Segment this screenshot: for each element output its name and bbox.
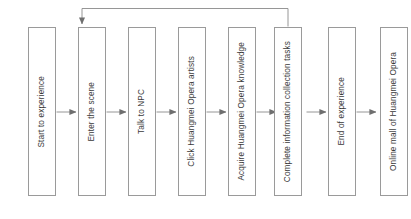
node-label: Talk to NPC [138, 89, 146, 134]
node-label: Complete information collection tasks [284, 41, 292, 182]
node-label: Start to experience [38, 76, 46, 148]
node-label: Acquire Huangmei Opera knowledge [238, 42, 246, 181]
feedback-loop-n6-n2 [82, 9, 288, 27]
node-online-mall-of-huangmei-opera[interactable]: Online mall of Huangmei Opera [380, 27, 408, 196]
node-end-of-experience[interactable]: End of experience [328, 27, 356, 196]
node-complete-information-collection-tasks[interactable]: Complete information collection tasks [274, 27, 302, 196]
node-label: Online mall of Huangmei Opera [390, 52, 398, 171]
node-talk-to-npc[interactable]: Talk to NPC [128, 27, 156, 196]
node-start-to-experience[interactable]: Start to experience [28, 27, 56, 196]
node-label: End of experience [338, 77, 346, 146]
node-acquire-huangmei-opera-knowledge[interactable]: Acquire Huangmei Opera knowledge [228, 27, 256, 196]
node-click-huangmei-opera-artists[interactable]: Click Huangmei Opera artists [178, 27, 206, 196]
flowchart-canvas: Start to experience Enter the scene Talk… [0, 0, 411, 219]
node-enter-the-scene[interactable]: Enter the scene [78, 27, 106, 196]
node-label: Click Huangmei Opera artists [188, 56, 196, 167]
node-label: Enter the scene [88, 82, 96, 142]
